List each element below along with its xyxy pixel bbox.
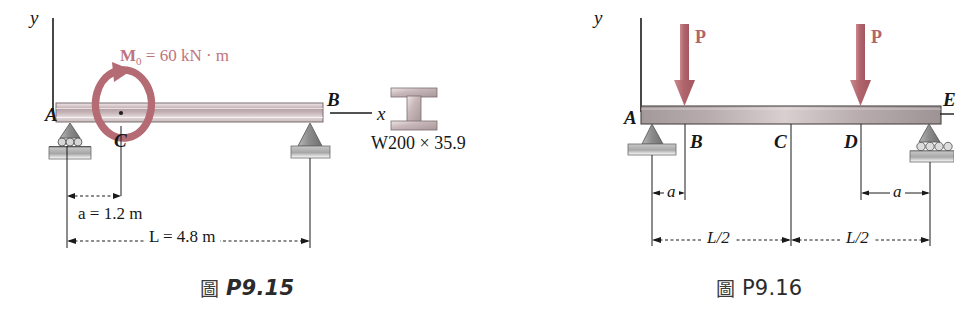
dimension-L-label-left: L = 4.8 m xyxy=(145,228,220,245)
moment-subscript: 0 xyxy=(136,55,142,67)
beam-right xyxy=(641,106,941,124)
dimension-a-label-right-right-fig: a xyxy=(890,183,905,200)
point-label-d-right: D xyxy=(844,132,858,151)
point-label-e-right: E xyxy=(943,90,956,109)
cross-section-designation: W200 × 35.9 xyxy=(371,134,466,152)
moment-unit: kN · m xyxy=(181,46,229,65)
figure-p9-16-graphics xyxy=(474,0,954,327)
caption-number-left: P9.15 xyxy=(226,276,294,300)
point-label-c-right: C xyxy=(774,132,787,151)
dimension-half-label-right: L/2 xyxy=(841,229,874,246)
caption-cjk-right: 圖 xyxy=(716,274,735,301)
point-label-b-left: B xyxy=(327,90,340,109)
load-label-p-right: P xyxy=(871,28,882,46)
figure-p9-16: y A B C D E P P a a L/2 L/2 圖 P9.16 xyxy=(474,0,954,327)
dimension-a-left xyxy=(67,193,121,199)
dimension-half-label-left: L/2 xyxy=(702,229,735,246)
load-label-p-left: P xyxy=(695,28,706,46)
y-axis-label-left: y xyxy=(30,8,38,27)
point-label-b-right: B xyxy=(690,132,703,151)
moment-value: 60 xyxy=(160,46,177,65)
figure-p9-15: y x A C B M0 = 60 kN · m a = 1.2 m L = 4… xyxy=(0,0,474,327)
caption-cjk-left: 圖 xyxy=(200,274,219,301)
load-arrow-p-left xyxy=(674,24,695,106)
support-a-roller xyxy=(49,123,91,169)
caption-p9-16: 圖 P9.16 xyxy=(716,274,802,301)
point-label-a-left: A xyxy=(45,105,58,124)
caption-p9-15: 圖 P9.15 xyxy=(200,274,294,301)
dimension-a-label-left: a = 1.2 m xyxy=(78,205,142,222)
x-axis-label-left: x xyxy=(377,104,385,123)
centroid-dot-c xyxy=(119,111,123,115)
dimension-a-label-left-right-fig: a xyxy=(664,183,679,200)
support-e-roller-right xyxy=(910,124,954,162)
moment-value-label: M0 = 60 kN · m xyxy=(120,46,229,67)
load-arrow-p-right xyxy=(850,24,871,106)
support-b-pin xyxy=(291,123,330,158)
moment-arrow-m0 xyxy=(95,62,151,138)
caption-number-right: P9.16 xyxy=(742,276,802,300)
moment-equals: = xyxy=(146,46,156,65)
support-a-pin-right xyxy=(628,124,676,155)
y-axis-label-right: y xyxy=(594,8,602,27)
cross-section-i-beam-icon xyxy=(391,88,437,130)
point-label-c-left: C xyxy=(114,131,127,150)
point-label-a-right: A xyxy=(624,108,637,127)
